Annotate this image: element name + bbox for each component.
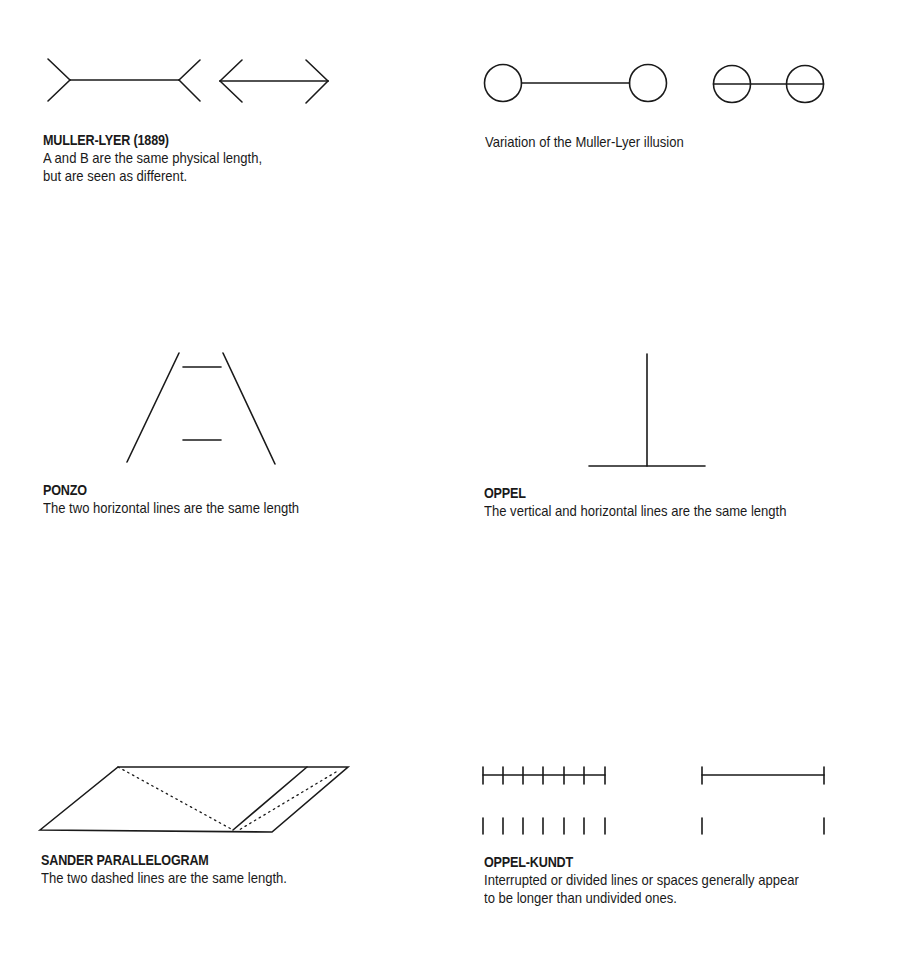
caption-text: Variation of the Muller-Lyer illusion <box>485 133 684 151</box>
caption-text: to be longer than undivided ones. <box>484 889 799 907</box>
caption-title: MULLER-LYER (1889) <box>43 131 262 149</box>
muller-lyer-figure-a <box>48 59 200 101</box>
oppel-figure <box>589 354 705 466</box>
caption-title: SANDER PARALLELOGRAM <box>41 851 287 869</box>
circle-variation-figure-b <box>714 66 824 103</box>
sander-caption: SANDER PARALLELOGRAM The two dashed line… <box>41 851 314 887</box>
oppel-kundt-figure-undivided <box>702 767 824 784</box>
muller-lyer-variation-caption: Variation of the Muller-Lyer illusion <box>485 133 706 151</box>
circle-variation-figure-a <box>485 65 667 102</box>
caption-text: The two horizontal lines are the same le… <box>43 499 299 517</box>
caption-text: Interrupted or divided lines or spaces g… <box>484 871 799 889</box>
caption-text: The vertical and horizontal lines are th… <box>484 502 786 520</box>
muller-lyer-caption: MULLER-LYER (1889) A and B are the same … <box>43 131 286 185</box>
oppel-kundt-figure-divided <box>483 767 605 784</box>
caption-title: OPPEL-KUNDT <box>484 853 799 871</box>
oppel-kundt-figure-ticks <box>483 818 824 834</box>
ponzo-figure <box>127 353 275 464</box>
caption-title: OPPEL <box>484 484 786 502</box>
sander-parallelogram-figure <box>40 767 348 832</box>
ponzo-caption: PONZO The two horizontal lines are the s… <box>43 481 328 517</box>
muller-lyer-figure-b <box>220 60 328 103</box>
caption-title: PONZO <box>43 481 299 499</box>
oppel-caption: OPPEL The vertical and horizontal lines … <box>484 484 820 520</box>
caption-text: A and B are the same physical length, <box>43 149 262 167</box>
caption-text: but are seen as different. <box>43 167 262 185</box>
caption-text: The two dashed lines are the same length… <box>41 869 287 887</box>
oppel-kundt-caption: OPPEL-KUNDT Interrupted or divided lines… <box>484 853 834 907</box>
